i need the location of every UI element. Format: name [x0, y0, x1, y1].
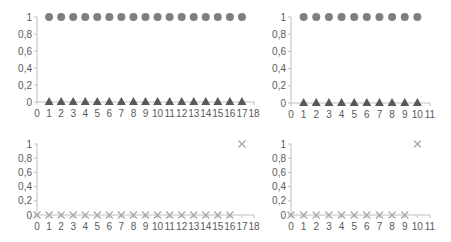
x-tick-label: 9: [143, 221, 149, 232]
chart-bottom-right: 00,20,40,60,8101234567891011: [272, 139, 436, 233]
triangle-marker: [350, 98, 359, 106]
x-tick-label: 9: [402, 109, 408, 120]
triangle-marker: [388, 98, 397, 106]
chart-top-left: 00,20,40,60,8101234567891011121314151617…: [18, 12, 260, 120]
x-tick-label: 7: [377, 221, 383, 232]
triangle-marker: [177, 97, 186, 105]
x-tick-label: 5: [351, 109, 357, 120]
x-tick-label: 11: [164, 221, 175, 232]
triangle-marker: [299, 98, 308, 106]
x-tick-label: 17: [236, 108, 248, 119]
x-tick-label: 9: [143, 108, 149, 119]
x-tick-label: 18: [248, 108, 260, 119]
x-tick-label: 1: [46, 108, 52, 119]
x-tick-label: 3: [326, 221, 332, 232]
x-tick-label: 1: [301, 221, 307, 232]
y-tick-label: 0,8: [272, 29, 286, 40]
triangle-marker: [165, 97, 174, 105]
y-tick-label: 0,8: [18, 153, 32, 164]
y-tick-label: 0: [280, 210, 286, 221]
circle-marker: [202, 13, 210, 21]
x-tick-label: 8: [389, 109, 395, 120]
x-tick-label: 6: [107, 221, 113, 232]
x-tick-label: 0: [288, 221, 294, 232]
triangle-marker: [201, 97, 210, 105]
circle-marker: [401, 13, 409, 21]
triangle-marker: [57, 97, 66, 105]
circle-marker: [363, 13, 371, 21]
x-tick-label: 5: [94, 108, 100, 119]
x-tick-label: 2: [313, 109, 319, 120]
x-tick-label: 18: [248, 221, 260, 232]
circle-marker: [81, 13, 89, 21]
circle-marker: [413, 13, 421, 21]
x-tick-label: 1: [301, 109, 307, 120]
circle-marker: [166, 13, 174, 21]
x-marker: [238, 141, 245, 148]
x-tick-label: 9: [402, 221, 408, 232]
x-tick-label: 13: [188, 108, 200, 119]
x-tick-label: 3: [326, 109, 332, 120]
x-tick-label: 16: [224, 221, 236, 232]
circle-marker: [178, 13, 186, 21]
x-tick-label: 11: [425, 109, 436, 120]
triangle-marker: [312, 98, 321, 106]
triangle-marker: [237, 97, 246, 105]
circle-marker: [105, 13, 113, 21]
circle-marker: [69, 13, 77, 21]
circle-marker: [142, 13, 150, 21]
x-tick-label: 11: [164, 108, 175, 119]
x-tick-label: 8: [131, 108, 137, 119]
y-tick-label: 0,4: [272, 181, 286, 192]
y-tick-label: 1: [26, 12, 32, 23]
triangle-marker: [129, 97, 138, 105]
x-tick-label: 14: [200, 108, 212, 119]
y-tick-label: 0,6: [272, 167, 286, 178]
y-tick-label: 0: [26, 210, 32, 221]
y-tick-label: 0: [26, 97, 32, 108]
y-tick-label: 1: [280, 12, 286, 23]
y-tick-label: 0,2: [272, 195, 286, 206]
circle-marker: [45, 13, 53, 21]
x-tick-label: 4: [82, 108, 88, 119]
x-tick-label: 12: [176, 221, 188, 232]
y-tick-label: 0: [280, 98, 286, 109]
circle-marker: [214, 13, 222, 21]
y-tick-label: 0,4: [272, 63, 286, 74]
x-tick-label: 2: [58, 221, 64, 232]
triangle-marker: [213, 97, 222, 105]
y-tick-label: 0,6: [18, 167, 32, 178]
x-tick-label: 17: [236, 221, 248, 232]
triangle-marker: [362, 98, 371, 106]
triangle-marker: [81, 97, 90, 105]
x-tick-label: 7: [377, 109, 383, 120]
circle-marker: [325, 13, 333, 21]
x-tick-label: 3: [70, 221, 76, 232]
circle-marker: [117, 13, 125, 21]
y-tick-label: 0,6: [272, 46, 286, 57]
triangle-marker: [225, 97, 234, 105]
chart-canvas: 00,20,40,60,8101234567891011121314151617…: [0, 0, 451, 242]
y-tick-label: 0,2: [18, 80, 32, 91]
triangle-marker: [189, 97, 198, 105]
triangle-marker: [413, 98, 422, 106]
x-tick-label: 8: [131, 221, 137, 232]
x-tick-label: 10: [152, 108, 164, 119]
circle-marker: [388, 13, 396, 21]
chart-bottom-left: 00,20,40,60,8101234567891011121314151617…: [18, 139, 260, 233]
triangle-marker: [337, 98, 346, 106]
circle-marker: [300, 13, 308, 21]
circle-marker: [93, 13, 101, 21]
x-tick-label: 0: [288, 109, 294, 120]
x-tick-label: 15: [212, 221, 224, 232]
circle-marker: [190, 13, 198, 21]
x-tick-label: 2: [313, 221, 319, 232]
x-tick-label: 5: [351, 221, 357, 232]
triangle-marker: [45, 97, 54, 105]
y-tick-label: 1: [26, 139, 32, 150]
circle-marker: [375, 13, 383, 21]
circle-marker: [129, 13, 137, 21]
x-tick-label: 1: [46, 221, 52, 232]
triangle-marker: [375, 98, 384, 106]
x-tick-label: 11: [425, 221, 436, 232]
